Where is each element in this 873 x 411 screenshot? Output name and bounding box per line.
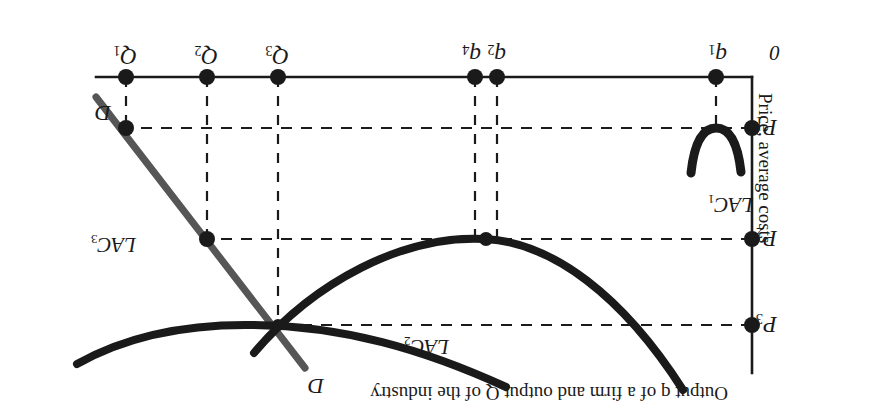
axis-dot-q2 xyxy=(489,69,505,85)
curve-label-LAC1-base: LAC xyxy=(714,193,753,217)
axis-label-q2: q2 xyxy=(487,43,506,67)
axis-label-P2-base: P xyxy=(763,226,777,251)
curve-label-LAC1-sub: 1 xyxy=(708,192,715,207)
axis-label-P2: P2 xyxy=(756,226,777,250)
axis-label-q4-base: q xyxy=(470,43,482,68)
axis-label-Q2-base: Q xyxy=(201,44,218,69)
axis-label-P3-sub: 3 xyxy=(756,311,763,327)
axis-label-q4-sub: 4 xyxy=(462,42,469,58)
tangency-dot-LAC3-min xyxy=(272,319,284,331)
curve-label-LAC1: LAC1 xyxy=(708,193,753,215)
cost-curve-LAC1 xyxy=(691,128,741,173)
curve-label-LAC2-sub: 2 xyxy=(404,334,411,349)
tangency-dot-LAC2-min xyxy=(479,232,493,246)
axis-label-Q2-sub: 2 xyxy=(194,43,201,59)
axis-label-Q3: Q3 xyxy=(265,44,289,68)
demand-label-top: D xyxy=(95,102,111,124)
demand-label-bottom: D xyxy=(308,375,324,397)
curve-label-LAC3-base: LAC xyxy=(97,233,136,257)
equilibrium-dot-P2-Q2 xyxy=(199,231,215,247)
axis-label-P1-base: P xyxy=(763,115,777,140)
axis-dot-Q1 xyxy=(118,69,134,85)
figure-page: Output q of a firm and output Q of the i… xyxy=(0,0,873,411)
axis-dot-q1 xyxy=(708,69,724,85)
axis-label-P1: P1 xyxy=(756,115,777,139)
rotated-figure-container: Output q of a firm and output Q of the i… xyxy=(0,0,873,411)
axis-dot-Q3 xyxy=(270,69,286,85)
equilibrium-dot-P1-Q1 xyxy=(118,120,134,136)
axis-label-q1-base: q xyxy=(716,43,728,68)
axis-label-P2-sub: 2 xyxy=(756,225,763,241)
curve-label-LAC3: LAC3 xyxy=(91,233,136,255)
axis-label-q4: q4 xyxy=(462,43,481,67)
axis-label-q2-base: q xyxy=(495,43,507,68)
axis-label-P3: P3 xyxy=(756,312,777,336)
axis-label-Q2: Q2 xyxy=(194,44,218,68)
curve-label-LAC2: LAC2 xyxy=(404,335,449,357)
axis-label-Q3-sub: 3 xyxy=(265,43,272,59)
curve-label-LAC2-base: LAC xyxy=(410,335,449,359)
axis-dot-Q2 xyxy=(199,69,215,85)
axis-label-q1-sub: 1 xyxy=(708,42,715,58)
axis-label-q2-sub: 2 xyxy=(487,42,494,58)
axis-label-Q1-sub: 1 xyxy=(113,43,120,59)
x-axis-title: Output q of a firm and output Q of the i… xyxy=(370,384,728,403)
axis-label-P1-sub: 1 xyxy=(756,114,763,130)
axis-label-Q1: Q1 xyxy=(113,44,137,68)
origin-label: 0 xyxy=(770,42,781,63)
axis-label-q1: q1 xyxy=(708,43,727,67)
axis-dot-q4 xyxy=(467,69,483,85)
axis-label-Q1-base: Q xyxy=(120,44,137,69)
axis-label-Q3-base: Q xyxy=(272,44,289,69)
curve-label-LAC3-sub: 3 xyxy=(91,232,98,247)
axis-label-P3-base: P xyxy=(763,312,777,337)
